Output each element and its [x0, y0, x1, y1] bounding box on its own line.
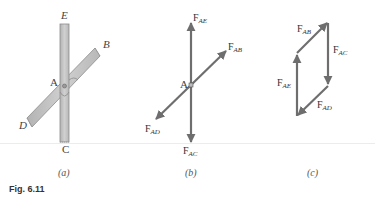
- label-f-ad: FAD: [145, 124, 160, 136]
- poly-label-f-ae: FAE: [277, 78, 291, 90]
- point-a-marker: [189, 83, 193, 87]
- label-d: D: [19, 120, 27, 131]
- bar-ec: [60, 24, 69, 142]
- caption-c: (c): [307, 167, 318, 178]
- arrow-f-ad: [156, 85, 191, 119]
- label-a-fbd: A: [180, 79, 188, 90]
- caption-b: (b): [185, 167, 197, 178]
- label-e: E: [61, 10, 68, 21]
- figure-6-11: E B A D C A FAE FAB FAD FAC FAB FAC FAE …: [0, 0, 375, 198]
- label-f-ae: FAE: [193, 13, 207, 25]
- fbd-arrows: [156, 23, 226, 142]
- figure-label: Fig. 6.11: [9, 184, 45, 194]
- label-f-ab: FAB: [228, 42, 242, 54]
- poly-label-f-ab: FAB: [297, 24, 311, 36]
- label-c: C: [62, 144, 69, 155]
- label-b: B: [103, 39, 110, 50]
- label-f-ac: FAC: [183, 146, 198, 158]
- caption-a: (a): [58, 167, 70, 178]
- poly-label-f-ad: FAD: [317, 100, 332, 112]
- poly-label-f-ac: FAC: [333, 45, 348, 57]
- label-a: A: [50, 77, 58, 88]
- arrow-f-ab: [191, 51, 226, 85]
